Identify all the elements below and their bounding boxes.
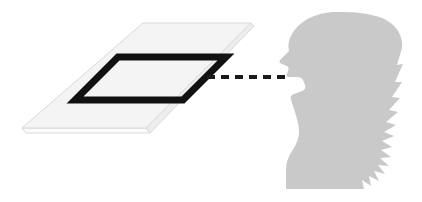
head-silhouette-group (280, 12, 403, 189)
figure-canvas: Sound wave passing through a planar fram… (0, 0, 422, 202)
head-silhouette (280, 12, 403, 189)
illustration-svg: Sound wave passing through a planar fram… (0, 0, 422, 202)
slab-top-face (22, 23, 251, 128)
slab-front-edge (22, 128, 150, 133)
planar-slab-group (22, 23, 254, 133)
